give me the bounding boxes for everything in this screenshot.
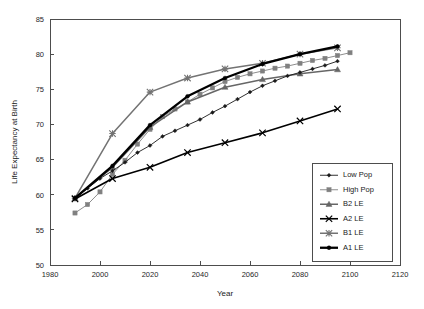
x-tick-label: 1980	[42, 270, 59, 279]
data-point-marker	[336, 59, 340, 63]
data-point-marker	[285, 64, 289, 68]
y-tick-label: 50	[36, 261, 44, 270]
data-point-marker	[323, 56, 327, 60]
y-tick-label: 85	[36, 15, 44, 24]
y-axis-ticks: 5055606570758085	[36, 15, 54, 270]
x-tick-label: 2040	[192, 270, 209, 279]
chart-legend[interactable]: Low PopHigh PopB2 LEA2 LEB1 LEA1 LE	[312, 163, 392, 261]
y-axis-title: Life Expectancy at Birth	[10, 100, 19, 184]
data-point-marker	[248, 72, 252, 76]
data-point-marker	[327, 246, 331, 250]
x-tick-label: 2020	[142, 270, 159, 279]
data-point-marker	[222, 66, 228, 72]
data-point-marker	[73, 211, 77, 215]
data-point-marker	[298, 61, 302, 65]
legend-item-label: A2 LE	[343, 214, 363, 223]
data-point-marker	[298, 52, 302, 56]
data-point-marker	[248, 90, 252, 94]
data-point-marker	[198, 118, 202, 122]
y-tick-label: 55	[36, 226, 44, 235]
data-point-marker	[326, 230, 332, 236]
data-point-marker	[211, 111, 215, 115]
legend-item-label: Low Pop	[343, 170, 372, 179]
legend-item-label: B1 LE	[343, 228, 363, 237]
data-point-marker	[311, 67, 315, 71]
data-point-marker	[273, 79, 277, 83]
series-line	[75, 53, 350, 213]
data-point-marker	[109, 130, 115, 136]
x-axis-ticks: 19802000202020402060208021002120	[42, 261, 409, 279]
y-tick-label: 60	[36, 191, 44, 200]
x-tick-label: 2080	[292, 270, 309, 279]
y-tick-label: 75	[36, 85, 44, 94]
x-tick-label: 2000	[92, 270, 109, 279]
data-point-marker	[286, 74, 290, 78]
legend-item-label: A1 LE	[343, 243, 363, 252]
x-tick-label: 2120	[392, 270, 409, 279]
data-point-marker	[261, 62, 265, 66]
data-point-marker	[273, 66, 277, 70]
data-point-marker	[336, 45, 340, 49]
data-point-marker	[85, 202, 89, 206]
data-point-marker	[348, 51, 352, 55]
line-chart: 5055606570758085 19802000202020402060208…	[0, 0, 424, 309]
data-point-marker	[310, 58, 314, 62]
data-point-marker	[186, 94, 190, 98]
data-point-marker	[335, 53, 339, 57]
legend-item-label: B2 LE	[343, 199, 363, 208]
x-tick-label: 2060	[242, 270, 259, 279]
data-point-marker	[260, 69, 264, 73]
y-tick-label: 80	[36, 50, 44, 59]
data-point-marker	[210, 86, 214, 90]
data-point-marker	[327, 188, 331, 192]
legend-item-label: High Pop	[343, 185, 374, 194]
data-point-marker	[98, 190, 102, 194]
data-point-marker	[223, 104, 227, 108]
data-point-marker	[184, 75, 190, 81]
series-a1-le	[73, 45, 339, 201]
data-point-marker	[111, 164, 115, 168]
data-point-marker	[186, 123, 190, 127]
y-tick-label: 70	[36, 120, 44, 129]
data-point-marker	[173, 129, 177, 133]
data-point-marker	[323, 63, 327, 67]
data-point-marker	[223, 76, 227, 80]
data-point-marker	[261, 84, 265, 88]
series-a2-le	[72, 106, 341, 202]
y-tick-label: 65	[36, 155, 44, 164]
data-point-marker	[148, 123, 152, 127]
data-point-marker	[147, 89, 153, 95]
data-series-layer	[72, 45, 352, 216]
x-tick-label: 2100	[342, 270, 359, 279]
data-point-marker	[73, 196, 77, 200]
data-point-marker	[235, 75, 239, 79]
series-high-pop	[73, 51, 352, 215]
data-point-marker	[236, 97, 240, 101]
x-axis-title: Year	[217, 289, 234, 298]
chart-container: 5055606570758085 19802000202020402060208…	[0, 0, 424, 309]
